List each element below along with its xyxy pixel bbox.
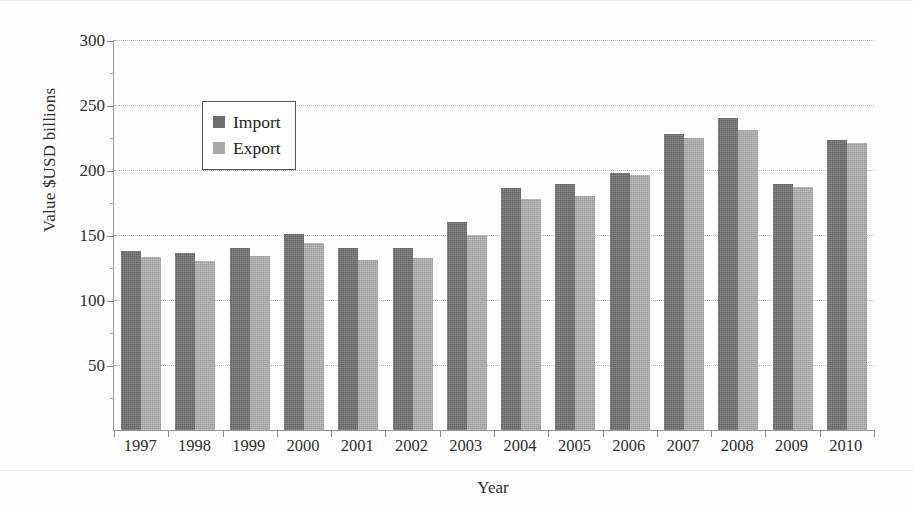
x-axis-tick-label: 2003 [439,436,493,456]
bar-export-2010 [847,143,867,430]
bar-import-2009 [773,184,793,430]
legend-label-export: Export [233,138,281,159]
bar-export-2000 [304,243,324,430]
import-swatch-icon [213,116,225,128]
x-axis-tick-label: 2004 [493,436,547,456]
bar-export-1999 [250,256,270,430]
x-axis-tick-label: 2005 [547,436,601,456]
bar-import-2007 [664,134,684,430]
x-axis-tick-label: 2001 [330,436,384,456]
page-edge-bottom [0,470,913,471]
bar-group [657,40,711,430]
bar-import-2010 [827,140,847,430]
bar-group [548,40,602,430]
y-axis-tick-label: 150 [80,226,106,246]
bar-group [331,40,385,430]
x-axis-tick-label: 1997 [113,436,167,456]
bar-import-2005 [555,184,575,430]
x-axis-tick-label: 2007 [656,436,710,456]
legend-item-export: Export [213,135,281,161]
bar-export-2003 [467,235,487,430]
bar-group [711,40,765,430]
bar-group [168,40,222,430]
x-axis-tick-label: 2008 [710,436,764,456]
bar-export-1997 [141,257,161,430]
x-axis-tick [874,430,875,437]
bar-import-1997 [121,251,141,430]
y-axis-tick [107,301,114,302]
chart-legend: Import Export [202,101,296,170]
bar-import-2006 [610,173,630,430]
bar-group [277,40,331,430]
y-axis-tick-label: 300 [80,31,106,51]
legend-item-import: Import [213,109,281,135]
y-axis-tick [107,41,114,42]
y-axis-tick-label: 250 [80,96,106,116]
y-axis-tick-label: 50 [88,356,105,376]
y-axis-tick [107,106,114,107]
bar-group [494,40,548,430]
bar-export-2007 [684,138,704,431]
x-axis-tick-label: 2002 [384,436,438,456]
x-axis-tick-label: 2006 [602,436,656,456]
x-axis-tick-labels: 1997199819992000200120022003200420052006… [113,436,873,456]
y-axis-title: Value $USD billions [40,50,60,270]
export-swatch-icon [213,142,225,154]
plot-area: 50100150200250300 [113,40,874,431]
bar-export-2004 [521,199,541,430]
bar-group [820,40,874,430]
x-axis-tick-label: 1999 [222,436,276,456]
bar-import-2003 [447,222,467,430]
bar-export-2009 [793,187,813,430]
bar-group [114,40,168,430]
y-axis-tick [107,171,114,172]
bar-chart: Value $USD billions 50100150200250300 19… [0,0,913,512]
bar-import-2008 [718,118,738,430]
x-axis-tick-label: 2009 [764,436,818,456]
bar-import-1999 [230,248,250,430]
y-axis-tick-label: 200 [80,161,106,181]
bar-export-2006 [630,175,650,430]
bar-group [603,40,657,430]
bar-import-2004 [501,188,521,430]
bar-export-1998 [195,261,215,430]
bar-export-2002 [413,258,433,430]
x-axis-tick-label: 2000 [276,436,330,456]
y-axis-tick [107,236,114,237]
bar-import-2002 [393,248,413,430]
y-axis-tick [107,366,114,367]
bar-import-1998 [175,253,195,430]
bar-export-2008 [738,130,758,430]
bar-import-2001 [338,248,358,430]
legend-label-import: Import [233,112,281,133]
x-axis-title: Year [113,478,873,498]
x-axis-tick-label: 2010 [819,436,873,456]
y-axis-tick-label: 100 [80,291,106,311]
x-axis-tick-label: 1998 [167,436,221,456]
bar-import-2000 [284,234,304,430]
bar-groups [114,40,874,430]
bar-export-2001 [358,260,378,430]
bar-group [765,40,819,430]
bar-export-2005 [575,196,595,430]
page-edge-top [0,0,913,1]
bar-group [440,40,494,430]
bar-group [223,40,277,430]
bar-group [385,40,439,430]
